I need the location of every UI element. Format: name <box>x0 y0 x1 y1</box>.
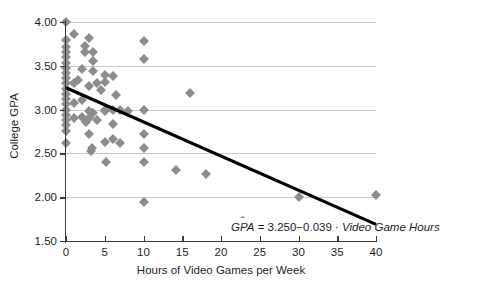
x-tick-mark <box>182 236 183 241</box>
data-point <box>139 36 149 46</box>
data-point <box>371 190 381 200</box>
y-axis-line <box>65 20 66 243</box>
regression-line <box>0 0 483 290</box>
x-tick-label: 0 <box>63 246 69 258</box>
data-point <box>101 157 111 167</box>
x-tick-mark <box>144 236 145 241</box>
equation-predictor-var: Video Game Hours <box>342 221 440 233</box>
y-tick-label: 3.00 <box>35 104 57 116</box>
regression-equation-annotation: ̂GPA = 3.250−0.039 · Video Game Hours <box>231 221 440 233</box>
gridline-y <box>66 66 376 67</box>
x-tick-mark <box>260 236 261 241</box>
data-point <box>139 129 149 139</box>
data-point <box>84 129 94 139</box>
x-tick-label: 30 <box>292 246 305 258</box>
data-point <box>108 119 118 129</box>
equation-slope: 0.039 <box>303 221 332 233</box>
x-tick-mark <box>337 236 338 241</box>
x-tick-mark <box>66 236 67 241</box>
equation-dot-operator: · <box>332 221 342 233</box>
data-point <box>171 165 181 175</box>
y-tick-mark <box>60 110 65 111</box>
y-tick-mark <box>60 197 65 198</box>
equation-equals: = <box>254 221 267 233</box>
equation-response-var: GPA <box>231 221 254 233</box>
y-tick-label: 3.50 <box>35 60 57 72</box>
data-point <box>139 54 149 64</box>
y-tick-label: 2.00 <box>35 191 57 203</box>
gridline-y <box>66 197 376 198</box>
data-point <box>115 138 125 148</box>
data-point <box>185 88 195 98</box>
data-point <box>123 106 133 116</box>
x-tick-label: 10 <box>137 246 150 258</box>
data-point <box>139 157 149 167</box>
x-tick-label: 5 <box>102 246 108 258</box>
x-tick-label: 15 <box>176 246 189 258</box>
data-point <box>88 66 98 76</box>
data-point <box>139 105 149 115</box>
data-point <box>108 71 118 81</box>
data-point <box>88 56 98 66</box>
data-point <box>69 29 79 39</box>
gridline-y <box>66 22 376 23</box>
y-tick-label: 1.50 <box>35 235 57 247</box>
data-point <box>111 90 121 100</box>
data-point <box>139 143 149 153</box>
gpa-hat-symbol: ̂GPA <box>231 221 254 233</box>
y-axis-title: College GPA <box>8 66 20 186</box>
y-tick-label: 4.00 <box>35 16 57 28</box>
scatter-plot-figure: 1.502.002.503.003.504.00 051015202530354… <box>0 0 483 290</box>
data-point <box>92 115 102 125</box>
y-tick-mark <box>60 66 65 67</box>
x-tick-mark <box>105 236 106 241</box>
x-tick-label: 40 <box>370 246 383 258</box>
equation-intercept: 3.250 <box>268 221 297 233</box>
y-tick-mark <box>60 153 65 154</box>
x-tick-mark <box>376 236 377 241</box>
y-tick-mark <box>60 22 65 23</box>
x-axis-title: Hours of Video Games per Week <box>66 264 376 276</box>
x-tick-label: 25 <box>253 246 266 258</box>
y-tick-label: 2.50 <box>35 147 57 159</box>
data-point <box>201 169 211 179</box>
y-tick-mark <box>60 241 65 242</box>
gridline-y <box>66 153 376 154</box>
x-tick-mark <box>299 236 300 241</box>
x-axis-line <box>65 241 377 242</box>
data-point <box>294 192 304 202</box>
data-point <box>139 198 149 208</box>
x-tick-label: 35 <box>331 246 344 258</box>
x-tick-mark <box>221 236 222 241</box>
x-tick-label: 20 <box>215 246 228 258</box>
